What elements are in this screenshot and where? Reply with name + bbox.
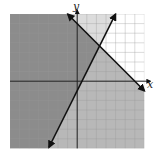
- y-axis-label: y: [72, 0, 80, 13]
- x-axis-label: x: [147, 78, 154, 91]
- inequality-graph: x y: [0, 0, 159, 165]
